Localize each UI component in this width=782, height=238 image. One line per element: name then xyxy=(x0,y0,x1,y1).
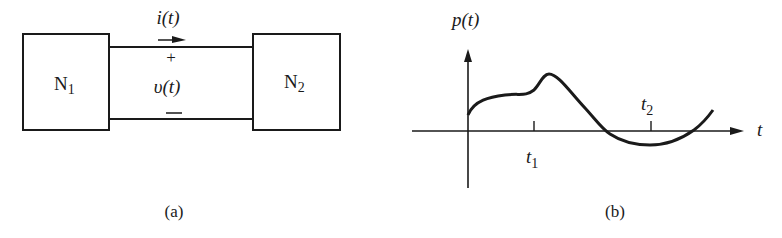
tick-t1-label: t1 xyxy=(526,146,538,171)
voltage-label: υ(t) xyxy=(154,76,181,98)
network-n1-label: N1 xyxy=(54,73,75,97)
caption-b: (b) xyxy=(605,202,625,221)
caption-a: (a) xyxy=(165,202,184,221)
tick-t2-label: t2 xyxy=(641,93,653,118)
x-axis-arrowhead-icon xyxy=(730,127,744,135)
current-arrow-icon xyxy=(158,36,186,43)
network-n2-label: N2 xyxy=(284,71,305,95)
figure: i(t) + υ(t) N1 N2 (a) p(t) t t1 t2 (b) xyxy=(0,0,782,238)
y-axis-label: p(t) xyxy=(450,9,479,31)
power-curve xyxy=(468,74,713,145)
y-axis-arrowhead-icon xyxy=(464,49,472,62)
x-axis-label: t xyxy=(757,119,763,140)
panel-b-plot xyxy=(412,49,744,188)
current-label: i(t) xyxy=(156,7,179,29)
plus-sign: + xyxy=(166,48,176,67)
